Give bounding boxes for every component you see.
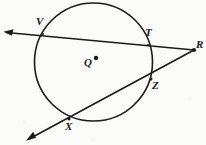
center-point-Q bbox=[94, 56, 98, 60]
arrowhead-bottom-left bbox=[26, 132, 36, 141]
diagram-svg bbox=[0, 0, 206, 145]
point-V bbox=[42, 33, 44, 35]
label-Q: Q bbox=[84, 57, 92, 68]
secant-line-VTR bbox=[4, 29, 195, 50]
arrowhead-left bbox=[4, 29, 14, 36]
secant-line-XZR bbox=[26, 50, 194, 141]
label-R: R bbox=[196, 39, 203, 50]
point-T bbox=[147, 44, 149, 46]
geometry-diagram-canvas: V T R Z X Q bbox=[0, 0, 206, 145]
label-V: V bbox=[36, 16, 43, 27]
label-Z: Z bbox=[152, 80, 159, 91]
label-T: T bbox=[145, 27, 152, 38]
circle-Q bbox=[35, 3, 153, 121]
label-X: X bbox=[65, 121, 72, 132]
